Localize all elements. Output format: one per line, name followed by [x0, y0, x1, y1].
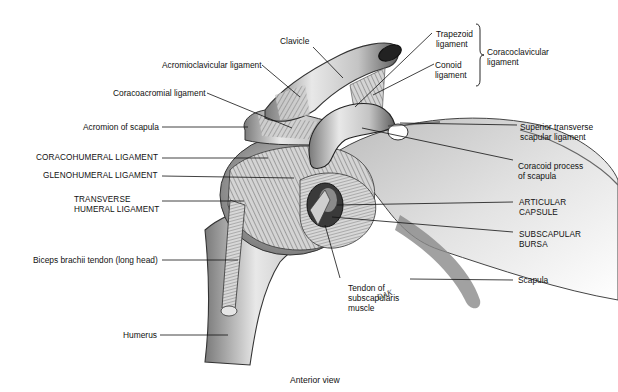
label-articular-capsule-line1: ARTICULAR: [519, 198, 566, 208]
label-coracohumeral-ligament: CORACOHUMERAL LIGAMENT: [36, 153, 158, 163]
brace-icon: [476, 24, 484, 86]
label-trapezoid-line1: Trapezoid: [436, 29, 473, 39]
label-coracoclavicular-line2: ligament: [487, 57, 519, 67]
label-clavicle: Clavicle: [280, 36, 309, 46]
label-articular-capsule-line2: CAPSULE: [519, 208, 558, 218]
label-superior-transverse-line2: scapular ligament: [520, 132, 586, 142]
label-subscapular-bursa-line2: BURSA: [519, 240, 548, 250]
scapula-body: [340, 118, 618, 300]
label-acromioclavicular-ligament: Acromioclavicular ligament: [162, 60, 262, 70]
label-transverse-humeral-line2: HUMERAL LIGAMENT: [74, 205, 159, 215]
label-coracoclavicular-line1: Coracoclavicular: [487, 47, 549, 57]
anatomy-diagram: DAK Clavicle Acromioclavicular ligament …: [0, 0, 618, 392]
label-glenohumeral-ligament: GLENOHUMERAL LIGAMENT: [43, 171, 158, 181]
label-tendon-subscapularis-line1: Tendon of: [348, 283, 385, 293]
label-coracoid-process-line2: of scapula: [518, 171, 556, 181]
label-conoid-line1: Conoid: [435, 60, 462, 70]
label-acromion-of-scapula: Acromion of scapula: [83, 122, 159, 132]
label-tendon-subscapularis-line3: muscle: [348, 303, 375, 313]
label-transverse-humeral-line1: TRANSVERSE: [74, 195, 131, 205]
label-conoid-line2: ligament: [435, 70, 467, 80]
label-coracoid-process-line1: Coracoid process: [518, 161, 583, 171]
label-humerus: Humerus: [123, 330, 157, 340]
label-biceps-brachii-tendon: Biceps brachii tendon (long head): [33, 255, 158, 265]
label-scapula: Scapula: [518, 275, 548, 285]
label-tendon-subscapularis-line2: subscapularis: [348, 293, 399, 303]
label-trapezoid-line2: ligament: [436, 39, 468, 49]
label-coracoacromial-ligament: Coracoacromial ligament: [113, 88, 206, 98]
label-subscapular-bursa-line1: SUBSCAPULAR: [519, 230, 581, 240]
figure-caption: Anterior view: [290, 375, 340, 385]
label-superior-transverse-line1: Superior transverse: [520, 122, 593, 132]
